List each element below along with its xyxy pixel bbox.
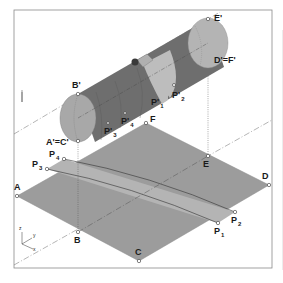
- point-b-prime: [76, 92, 79, 95]
- label-e: E: [203, 160, 209, 169]
- label-e-prime: E': [214, 14, 222, 23]
- point-p2-prime: [173, 84, 176, 87]
- label-p4: P4: [49, 150, 59, 159]
- point-b: [76, 230, 79, 233]
- label-p2: P2: [231, 216, 241, 225]
- label-p1-prime: P'1: [151, 98, 164, 107]
- label-p3-prime: P'3: [104, 127, 117, 136]
- label-p4-prime: P'4: [121, 117, 134, 126]
- point-p4: [62, 157, 65, 160]
- point-d: [267, 183, 270, 186]
- label-p1: P1: [214, 227, 224, 236]
- label-a: A: [14, 183, 21, 192]
- point-p3-prime: [107, 122, 110, 125]
- point-p2: [233, 210, 236, 213]
- axis-label-z: z: [19, 226, 22, 231]
- label-p2-prime: P'2: [172, 91, 185, 100]
- point-p1: [216, 221, 219, 224]
- label-a-c-prime: A'=C': [46, 138, 69, 147]
- label-c: C: [135, 248, 142, 257]
- point-p3: [45, 167, 48, 170]
- point-f: [144, 121, 147, 124]
- point-p4-prime: [124, 112, 127, 115]
- diagram-canvas: A B C D E F P3 P4 P1 P2 B' A'=C' E' D'=F…: [0, 0, 283, 283]
- axis-label-y: y: [33, 233, 36, 238]
- axis-label-x: x: [33, 247, 36, 252]
- point-a: [15, 194, 18, 197]
- point-e: [206, 154, 209, 157]
- label-d-f-prime: D'=F': [214, 56, 236, 65]
- label-b: B: [74, 236, 81, 245]
- label-p3: P3: [32, 160, 42, 169]
- point-c: [137, 259, 140, 262]
- label-d: D: [262, 172, 269, 181]
- label-b-prime: B': [72, 81, 81, 90]
- diagram-svg: [0, 0, 283, 283]
- point-e-prime: [206, 17, 209, 20]
- label-f: F: [150, 115, 156, 124]
- point-a-c-prime: [76, 139, 79, 142]
